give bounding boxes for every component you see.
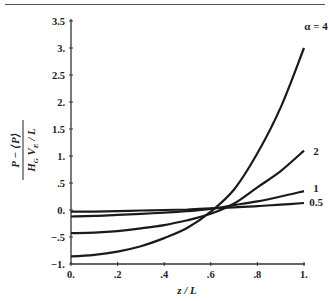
y-tick-label: −1. (51, 259, 65, 270)
x-tick-label: .4 (160, 269, 169, 280)
curve-alpha-1 (71, 191, 304, 216)
x-tick-label: 0. (67, 269, 75, 280)
curve-label: 2 (313, 145, 319, 157)
curve-alpha-4 (71, 48, 304, 256)
curve-label: α = 4 (304, 20, 328, 32)
y-tick-label: 3.5 (52, 16, 65, 27)
curve-alpha-0.5 (71, 203, 304, 212)
chart: −1.−.50..51.1.52.2.53.3.50..2.4.6.81. α … (0, 0, 329, 301)
y-axis-title: P − ⟨P⟩ HG VE / L (9, 120, 40, 180)
y-tick-label: 1. (57, 151, 65, 162)
curves (71, 48, 304, 256)
y-axis-title-numerator: P − ⟨P⟩ (9, 132, 21, 167)
y-tick-label: 3. (57, 43, 65, 54)
x-axis-title: z / L (176, 284, 197, 296)
y-axis-title-denominator: HG VE / L (25, 128, 40, 173)
y-tick-label: 2. (57, 97, 65, 108)
x-tick-label: .6 (207, 269, 215, 280)
curve-labels: α = 4210.5 (304, 20, 328, 208)
curve-label: 1 (313, 182, 319, 194)
x-tick-label: .8 (253, 269, 261, 280)
y-tick-label: .5 (57, 178, 65, 189)
y-tick-label: 2.5 (52, 70, 65, 81)
axes: −1.−.50..51.1.52.2.53.3.50..2.4.6.81. (51, 16, 308, 280)
curve-label: 0.5 (309, 196, 323, 208)
curve-alpha-2 (71, 151, 304, 234)
y-tick-label: 1.5 (52, 124, 65, 135)
x-tick-label: .2 (114, 269, 122, 280)
y-tick-label: 0. (57, 205, 65, 216)
y-tick-label: −.5 (51, 232, 65, 243)
x-tick-label: 1. (300, 269, 308, 280)
